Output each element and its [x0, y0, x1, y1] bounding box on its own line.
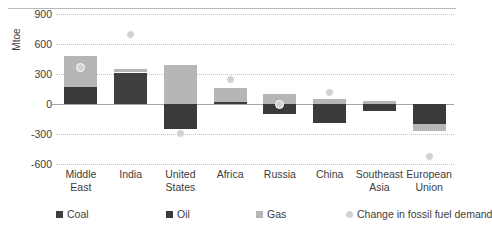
bar-segment-oil: [164, 104, 197, 129]
x-axis-category-labels: Middle EastIndiaUnited StatesAfricaRussi…: [56, 168, 454, 200]
y-axis-tick-label: 600: [6, 39, 52, 49]
x-axis-label-united-states: United States: [156, 168, 206, 194]
change-in-fossil-fuel-demand-marker: [226, 75, 235, 84]
y-axis-tick-label: 0: [6, 99, 52, 109]
bar-group: [363, 14, 396, 164]
plot-area: [56, 14, 454, 164]
bar-segment-gas: [164, 65, 197, 104]
legend-swatch-icon: [256, 211, 263, 218]
bar-group: [263, 14, 296, 164]
legend-swatch-icon: [56, 211, 63, 218]
zero-axis-tick: [52, 104, 56, 105]
legend-item-coal[interactable]: Coal: [56, 208, 89, 220]
gridline: [56, 164, 454, 165]
x-axis-label-european-union: European Union: [404, 168, 454, 194]
bar-segment-coal: [114, 73, 147, 105]
bar-segment-oil: [413, 104, 446, 124]
bar-group: [214, 14, 247, 164]
y-axis-tick-label: 900: [6, 9, 52, 19]
legend-label: Change in fossil fuel demand: [357, 208, 492, 220]
change-in-fossil-fuel-demand-marker: [425, 152, 434, 161]
bar-segment-gas: [413, 124, 446, 131]
y-axis-tick-labels: 9006003000-300-600: [0, 14, 52, 164]
bar-segment-oil: [313, 104, 346, 123]
bar-group: [413, 14, 446, 164]
x-axis-label-india: India: [106, 168, 156, 181]
x-axis-label-southeast-asia: Southeast Asia: [355, 168, 405, 194]
bar-segment-oil: [214, 102, 247, 104]
y-axis-tick-label: -300: [6, 129, 52, 139]
legend-label: Coal: [67, 208, 89, 220]
y-axis-tick-label: -600: [6, 159, 52, 169]
bar-segment-oil: [363, 104, 396, 111]
bar-segment-gas: [313, 99, 346, 105]
legend-swatch-icon: [166, 211, 173, 218]
chart-legend: CoalOilGasChange in fossil fuel demand: [56, 208, 456, 226]
legend-label: Gas: [267, 208, 286, 220]
x-axis-label-china: China: [305, 168, 355, 181]
bar-segment-gas: [363, 101, 396, 105]
legend-swatch-icon: [346, 211, 353, 218]
change-in-fossil-fuel-demand-marker: [325, 88, 334, 97]
bar-segment-gas: [214, 88, 247, 102]
y-axis-tick-label: 300: [6, 69, 52, 79]
x-axis-label-middle-east: Middle East: [56, 168, 106, 194]
change-in-fossil-fuel-demand-marker: [76, 63, 85, 72]
change-in-fossil-fuel-demand-marker: [176, 129, 185, 138]
x-axis-label-russia: Russia: [255, 168, 305, 181]
bar-group: [164, 14, 197, 164]
legend-item-change-in-fossil-fuel-demand[interactable]: Change in fossil fuel demand: [346, 208, 492, 220]
bar-group: [64, 14, 97, 164]
bar-segment-gas: [114, 69, 147, 72]
legend-label: Oil: [177, 208, 190, 220]
legend-item-gas[interactable]: Gas: [256, 208, 286, 220]
legend-item-oil[interactable]: Oil: [166, 208, 190, 220]
change-in-fossil-fuel-demand-marker: [126, 30, 135, 39]
x-axis-label-africa: Africa: [205, 168, 255, 181]
bar-segment-oil: [64, 87, 97, 105]
figure-top-rule: [8, 8, 456, 9]
change-in-fossil-fuel-demand-marker: [275, 100, 284, 109]
